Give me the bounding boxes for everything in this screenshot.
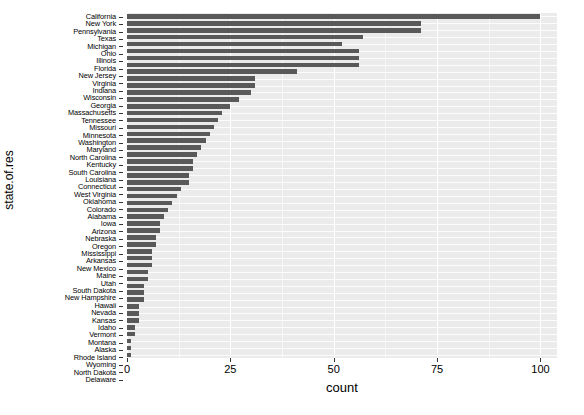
- bar-row: [127, 199, 557, 206]
- bar: [127, 69, 297, 74]
- bar-row: [127, 179, 557, 186]
- bar-row: [127, 20, 557, 27]
- y-axis-tick-mark: [119, 24, 123, 25]
- y-axis-tick-mark: [119, 83, 123, 84]
- x-axis-tick-label: 100: [531, 363, 549, 375]
- bar: [127, 256, 152, 261]
- bar: [127, 63, 359, 68]
- x-axis-tick-label: 50: [328, 363, 340, 375]
- bar-row: [127, 296, 557, 303]
- x-axis-tick-label: 0: [124, 363, 130, 375]
- bar: [127, 311, 139, 316]
- y-axis-tick: Delaware: [18, 376, 118, 383]
- y-axis-tick-mark: [119, 224, 123, 225]
- bar-row: [127, 151, 557, 158]
- bar-row: [127, 282, 557, 289]
- bar-series: [127, 13, 557, 358]
- y-axis-tick-mark: [119, 76, 123, 77]
- y-axis-tick-mark: [119, 98, 123, 99]
- bar-row: [127, 213, 557, 220]
- y-axis-tick-mark: [119, 291, 123, 292]
- y-axis-tick-mark: [119, 120, 123, 121]
- bar: [127, 132, 210, 137]
- x-axis-title: count: [127, 380, 557, 395]
- y-axis-tick-mark: [119, 313, 123, 314]
- bar: [127, 284, 144, 289]
- bar-row: [127, 89, 557, 96]
- bar: [127, 111, 222, 116]
- bar: [127, 339, 131, 344]
- bar: [127, 290, 144, 295]
- y-axis-tick-mark: [119, 187, 123, 188]
- bar: [127, 304, 139, 309]
- bar: [127, 297, 144, 302]
- y-axis-tick-mark: [119, 106, 123, 107]
- y-axis-tick-mark: [119, 343, 123, 344]
- x-axis-tick-mark: [540, 358, 541, 362]
- bar: [127, 325, 135, 330]
- y-axis-tick-mark: [119, 298, 123, 299]
- y-axis-title-text: state.of.res: [2, 150, 16, 209]
- y-axis-tick-mark: [119, 320, 123, 321]
- y-axis-tick-mark: [119, 365, 123, 366]
- y-axis-tick-mark: [119, 350, 123, 351]
- y-axis-tick-mark: [119, 61, 123, 62]
- bar: [127, 263, 152, 268]
- y-axis-tick-mark: [119, 46, 123, 47]
- bar-row: [127, 54, 557, 61]
- x-axis-tick-mark: [437, 358, 438, 362]
- bar-row: [127, 220, 557, 227]
- bar-row: [127, 331, 557, 338]
- x-axis-tick-label: 75: [431, 363, 443, 375]
- x-axis-tick-mark: [230, 358, 231, 362]
- bar: [127, 173, 189, 178]
- bar: [127, 125, 214, 130]
- y-axis-tick-mark: [119, 335, 123, 336]
- bar: [127, 214, 164, 219]
- bar: [127, 42, 342, 47]
- y-axis-tick-mark: [119, 306, 123, 307]
- y-axis-tick-mark: [119, 135, 123, 136]
- bar-row: [127, 13, 557, 20]
- bar-row: [127, 234, 557, 241]
- bar: [127, 159, 193, 164]
- y-axis-tick-mark: [119, 231, 123, 232]
- bar-row: [127, 262, 557, 269]
- y-axis-tick-mark: [119, 209, 123, 210]
- bar: [127, 201, 172, 206]
- y-axis-tick-mark: [119, 283, 123, 284]
- bar-row: [127, 269, 557, 276]
- x-axis-tick-mark: [334, 358, 335, 362]
- x-axis: 0255075100: [127, 358, 557, 380]
- bar-row: [127, 117, 557, 124]
- bar: [127, 76, 255, 81]
- y-axis-tick-label: Delaware: [86, 376, 118, 383]
- bar-row: [127, 144, 557, 151]
- bar-row: [127, 345, 557, 352]
- bar: [127, 332, 135, 337]
- y-axis-tick-mark: [119, 194, 123, 195]
- bar: [127, 208, 168, 213]
- bar-row: [127, 255, 557, 262]
- bar: [127, 242, 156, 247]
- x-axis-tick-label: 25: [224, 363, 236, 375]
- bar: [127, 118, 218, 123]
- y-axis-tick-mark: [119, 39, 123, 40]
- y-axis-tick-mark: [119, 128, 123, 129]
- y-axis-tick-mark: [119, 276, 123, 277]
- bar: [127, 235, 156, 240]
- bar-row: [127, 289, 557, 296]
- bar: [127, 270, 148, 275]
- bar-row: [127, 110, 557, 117]
- bar: [127, 28, 421, 33]
- bar-row: [127, 124, 557, 131]
- y-axis-tick-mark: [119, 202, 123, 203]
- bar: [127, 97, 239, 102]
- y-axis-tick-mark: [119, 217, 123, 218]
- bar-row: [127, 351, 557, 358]
- y-axis-title: state.of.res: [0, 0, 18, 360]
- bar: [127, 49, 359, 54]
- bar-row: [127, 275, 557, 282]
- bar-row: [127, 96, 557, 103]
- bar-row: [127, 248, 557, 255]
